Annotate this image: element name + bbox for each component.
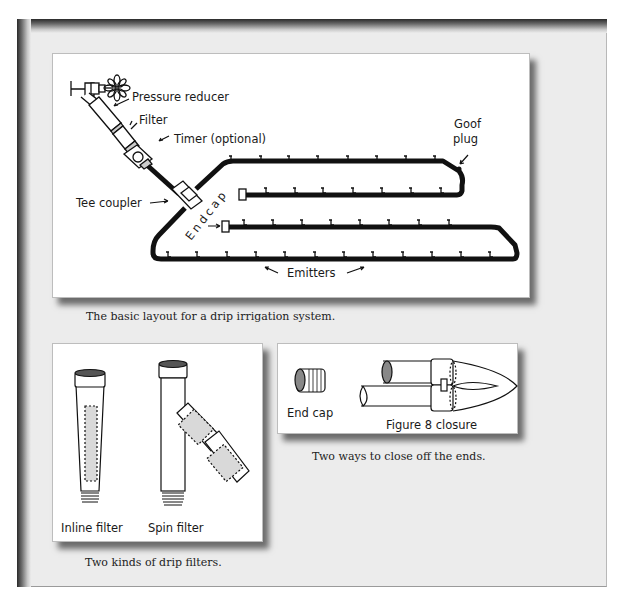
figure8-closure-icon bbox=[360, 359, 517, 411]
end-closure-diagram: End cap Figure 8 closure bbox=[278, 344, 519, 435]
label-spin-filter: Spin filter bbox=[148, 521, 204, 535]
goof-plug-icon bbox=[457, 167, 462, 172]
endcap-icon bbox=[222, 221, 229, 232]
label-pressure-reducer: Pressure reducer bbox=[132, 90, 229, 104]
endcap-icon bbox=[239, 189, 246, 200]
irrigation-layout-figure: Pressure reducer Filter Timer (optional)… bbox=[52, 53, 530, 298]
label-plug: plug bbox=[453, 132, 478, 146]
irrigation-layout-diagram: Pressure reducer Filter Timer (optional)… bbox=[53, 54, 531, 299]
label-goof: Goof bbox=[454, 117, 482, 131]
end-cap-icon bbox=[295, 369, 325, 392]
spin-filter-icon bbox=[159, 361, 249, 506]
pressure-reducer-icon bbox=[89, 97, 121, 131]
label-filter: Filter bbox=[139, 113, 168, 127]
drip-filters-figure: Inline filter Spin filter bbox=[52, 343, 263, 542]
caption-layout: The basic layout for a drip irrigation s… bbox=[86, 310, 335, 323]
caption-closures: Two ways to close off the ends. bbox=[312, 450, 486, 463]
frame-left-shadow bbox=[17, 19, 31, 587]
frame-top-shadow bbox=[17, 19, 607, 33]
label-figure8-closure: Figure 8 closure bbox=[386, 418, 477, 432]
label-emitters: Emitters bbox=[287, 266, 335, 280]
inline-filter-icon bbox=[75, 370, 105, 503]
caption-filters: Two kinds of drip filters. bbox=[85, 556, 222, 569]
label-tee-coupler: Tee coupler bbox=[75, 196, 142, 210]
label-end-cap: End cap bbox=[287, 406, 333, 420]
drip-filters-diagram: Inline filter Spin filter bbox=[53, 344, 264, 543]
end-closure-figure: End cap Figure 8 closure bbox=[277, 343, 518, 434]
label-timer: Timer (optional) bbox=[173, 132, 266, 146]
label-inline-filter: Inline filter bbox=[61, 521, 123, 535]
